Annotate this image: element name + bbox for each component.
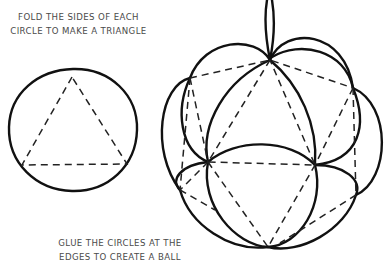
hanging-loop [266,0,274,60]
illustration-canvas [0,0,392,268]
fold-triangle [22,77,127,165]
fold-line [208,162,315,247]
ball-segment-bottom-center [207,162,317,247]
ball-segment-bottom-left [176,162,268,248]
fold-line [180,162,208,190]
ball-segment-top-left [190,44,270,78]
folded-circle-illustration [9,69,137,191]
ball-ornament-illustration [162,0,382,248]
fold-lines [180,60,356,247]
ball-segment-top-right-inner [272,49,353,88]
fold-line [208,60,315,165]
fold-line [280,195,356,243]
ball-segment-left-outer [162,78,190,190]
paper-circle [9,69,137,191]
ball-segment-right-inner [315,88,360,165]
